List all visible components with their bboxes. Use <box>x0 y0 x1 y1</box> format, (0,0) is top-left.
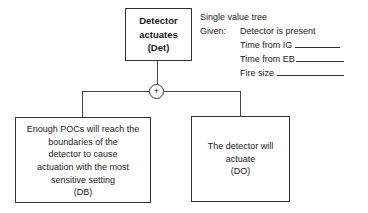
connector-horizontal-right <box>164 91 240 92</box>
root-node-line-3: (Det) <box>148 41 170 55</box>
connector-root-to-gate <box>157 61 158 84</box>
child-node-db: Enough POCs will reach the boundaries of… <box>15 117 151 203</box>
child-db-line-5: sensitive setting <box>51 174 115 187</box>
blank-line-fire-size <box>277 66 344 76</box>
plus-junction-icon: + <box>149 84 164 99</box>
given-label: Given: <box>200 24 240 38</box>
given-item-time-from-eb: Time from EB <box>240 54 295 64</box>
given-row-3: Time from EB <box>200 52 344 66</box>
given-item-fire-size: Fire size <box>240 68 274 78</box>
connector-gate-to-do <box>240 91 241 116</box>
blank-line-time-from-eb <box>296 52 344 62</box>
child-do-line-2: actuate <box>226 153 256 166</box>
notes-title: Single value tree <box>200 10 344 24</box>
connector-horizontal-left <box>82 91 149 92</box>
root-node-det: Detector actuates (Det) <box>125 8 192 61</box>
tree-notes: Single value tree Given:Detector is pres… <box>200 10 344 80</box>
child-db-line-1: Enough POCs will reach the <box>27 123 140 136</box>
given-row-4: Fire size <box>200 66 344 80</box>
blank-line-time-from-ig <box>295 38 340 48</box>
child-do-line-3: (DO) <box>231 165 251 178</box>
given-row-1: Given:Detector is present <box>200 24 344 38</box>
child-db-line-6: (DB) <box>74 186 93 199</box>
plus-symbol: + <box>154 87 159 96</box>
child-node-do: The detector will actuate (DO) <box>191 116 290 202</box>
child-do-line-1: The detector will <box>208 140 274 153</box>
child-db-line-2: boundaries of the <box>48 136 118 149</box>
root-node-line-2: actuates <box>139 28 178 42</box>
child-db-line-3: detector to cause <box>48 148 117 161</box>
given-item-detector-present: Detector is present <box>240 26 316 36</box>
connector-gate-to-db <box>82 91 83 117</box>
given-row-2: Time from IG <box>200 38 344 52</box>
root-node-line-1: Detector <box>139 14 178 28</box>
given-item-time-from-ig: Time from IG <box>240 40 292 50</box>
child-db-line-4: actuation with the most <box>37 161 129 174</box>
